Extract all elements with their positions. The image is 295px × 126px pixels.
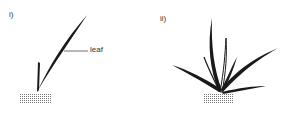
seedling-plant: [20, 15, 88, 104]
tillered-plant: [172, 18, 278, 103]
soil-patch-i: [20, 94, 52, 104]
plant-diagram: [0, 0, 295, 126]
soil-patch-ii: [204, 93, 234, 103]
